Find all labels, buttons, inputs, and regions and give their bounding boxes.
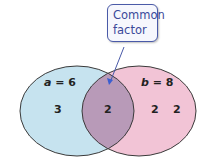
set-a-label: a = 6 [44,76,76,89]
common-factor-callout: Common factor [107,4,158,42]
set-b-var: b [141,76,149,89]
set-b-element-1: 2 [151,103,159,116]
intersection-element: 2 [104,103,112,116]
set-b-label: b = 8 [141,76,173,89]
set-a-element: 3 [54,103,62,116]
venn-diagram [0,0,208,164]
set-b-eq: = 8 [149,76,174,89]
callout-line-2: factor [113,23,157,38]
set-a-eq: = 6 [51,76,76,89]
callout-line-1: Common [113,8,157,23]
set-b-element-2: 2 [173,103,181,116]
